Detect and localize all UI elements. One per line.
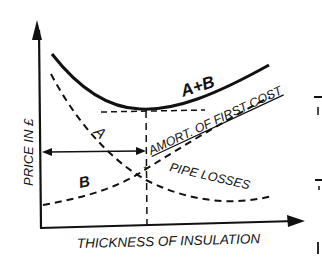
curve-a-label: A (90, 122, 110, 142)
pipe-losses-label: PIPE LOSSES (168, 160, 252, 192)
x-axis (40, 215, 305, 228)
y-axis-arrow-icon (32, 20, 42, 40)
price-indicator-arrow (42, 147, 146, 156)
curve-total-a-plus-b (52, 54, 269, 109)
curve-total-label: A+B (177, 72, 217, 101)
minimum-horizontal-guide (101, 110, 205, 112)
arrow-right-icon (136, 147, 146, 155)
x-axis-label: THICKNESS OF INSULATION (77, 231, 261, 251)
amortization-label: AMORT. OF FIRST COST (145, 83, 285, 158)
edge-fragments (314, 97, 322, 254)
insulation-cost-diagram: * A+B A B AMORT. OF FIRST COST PIPE LOSS… (0, 0, 322, 272)
arrow-left-icon (42, 148, 52, 156)
x-axis-arrow-icon (287, 215, 305, 227)
curve-b-label: B (77, 172, 91, 191)
y-axis-label: PRICE IN £ (21, 118, 36, 186)
